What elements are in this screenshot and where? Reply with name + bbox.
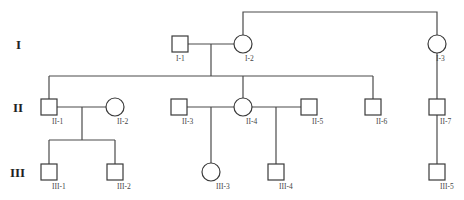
id-label-iii1: III-1	[52, 182, 66, 191]
male-symbol-ii1	[41, 99, 57, 115]
id-label-iii4: III-4	[279, 182, 293, 191]
id-label-ii6: II-6	[376, 117, 387, 126]
generation-labels: I II III	[10, 37, 25, 180]
female-symbol-iii3	[202, 163, 220, 181]
id-label-i1: I-1	[176, 54, 185, 63]
male-symbol-iii5	[429, 164, 445, 180]
id-label-ii7: II-7	[440, 117, 451, 126]
id-label-iii5: III-5	[440, 182, 454, 191]
id-label-i2: I-2	[245, 54, 254, 63]
generation-label-i: I	[16, 37, 21, 52]
id-label-iii2: III-2	[117, 182, 131, 191]
id-label-ii4: II-4	[246, 117, 257, 126]
female-symbol-i2	[234, 35, 252, 53]
generation-label-iii: III	[10, 165, 25, 180]
male-symbol-ii7	[429, 99, 445, 115]
male-symbol-iii2	[107, 164, 123, 180]
id-label-ii5: II-5	[312, 117, 323, 126]
generation-label-ii: II	[13, 100, 23, 115]
female-symbol-ii2	[106, 98, 124, 116]
id-label-ii2: II-2	[117, 117, 128, 126]
male-symbol-ii5	[301, 99, 317, 115]
id-label-iii3: III-3	[216, 182, 230, 191]
male-symbol-i1	[172, 36, 188, 52]
individuals: I-1 I-2 I-3 II-1 II-2 II-3 II-4 II-5 II-…	[41, 35, 454, 191]
male-symbol-ii6	[365, 99, 381, 115]
male-symbol-iii4	[268, 164, 284, 180]
female-symbol-ii4	[234, 98, 252, 116]
male-symbol-ii3	[171, 99, 187, 115]
id-label-i3: I-3	[436, 54, 445, 63]
id-label-ii3: II-3	[182, 117, 193, 126]
female-symbol-i3	[428, 35, 446, 53]
id-label-ii1: II-1	[52, 117, 63, 126]
pedigree-diagram: I II III I-1 I-2 I-3 II-1 II-2 II-3 II-4…	[0, 0, 464, 200]
line-i2-i3-link	[243, 12, 437, 35]
male-symbol-iii1	[41, 164, 57, 180]
